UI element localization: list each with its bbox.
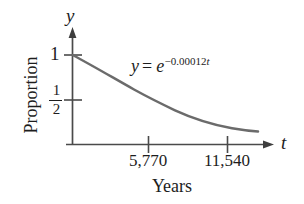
plot-canvas	[0, 0, 304, 204]
equation-exponent: −0.00012t	[164, 55, 209, 67]
exponential-decay-figure: y t 1 1 2 5,770 11,540 Years Proportion …	[0, 0, 304, 204]
fraction-numerator: 1	[49, 83, 64, 99]
equation-lhs: y	[131, 56, 139, 76]
x-axis-title: Years	[122, 177, 222, 195]
x-axis	[66, 141, 274, 149]
y-tick-label-one: 1	[50, 44, 60, 63]
x-tick-label-5770: 5,770	[111, 152, 185, 169]
y-axis	[69, 27, 77, 145]
y-axis-title: Proportion	[22, 35, 40, 155]
y-tick-label-one-half: 1 2	[49, 83, 64, 118]
fraction-denominator: 2	[49, 102, 64, 118]
y-axis-variable-label: y	[66, 6, 74, 25]
equation-equals: =	[139, 56, 156, 76]
x-axis-variable-label: t	[281, 133, 286, 152]
x-tick-label-11540: 11,540	[185, 152, 269, 169]
curve-equation-annotation: y=e−0.00012t	[131, 56, 209, 75]
equation-exponent-coefficient: −0.00012	[164, 55, 206, 67]
equation-exponent-variable: t	[206, 55, 209, 67]
